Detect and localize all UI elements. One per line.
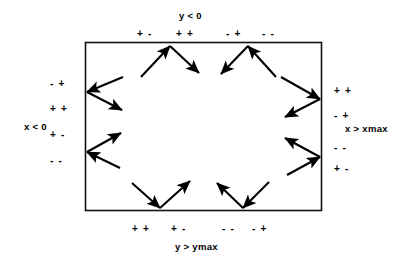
arrow-bottom-left-incoming [132,183,160,208]
boundary-rectangle [86,43,322,211]
left-sign-label-2: + + [50,104,68,114]
arrow-left-upper-outgoing [87,92,122,110]
top-condition-label: y < 0 [179,11,202,21]
left-sign-label-3: + - [50,130,66,140]
arrow-top-left-outgoing [170,46,199,73]
bottom-sign-label-1: + + [132,224,150,234]
left-sign-label-1: - + [50,79,66,89]
arrow-bottom-right-incoming [243,182,269,208]
top-sign-label-3: - + [226,29,242,39]
arrow-right-upper-outgoing [285,99,320,117]
bottom-condition-label: y > ymax [175,242,218,252]
right-sign-label-2: - + [334,111,350,121]
arrow-bottom-left-outgoing [160,181,190,208]
left-condition-label: x < 0 [24,122,47,132]
arrow-left-upper-incoming [87,77,123,92]
right-sign-label-3: - - [334,143,347,153]
left-sign-label-4: - - [50,156,63,166]
boundary-reflection-diagram: y < 0 + - + + - + - - - + + + + - - - x … [0,0,407,269]
top-sign-label-4: - - [262,29,275,39]
arrow-right-lower-incoming [287,157,320,175]
right-sign-label-4: + - [334,164,350,174]
arrow-top-right-outgoing [221,46,248,74]
arrow-left-lower-incoming [87,152,120,168]
arrow-left-lower-outgoing [87,133,121,152]
bottom-sign-label-4: - + [252,224,268,234]
arrow-bottom-right-outgoing [217,183,243,208]
arrow-top-left-incoming [141,46,170,77]
bottom-sign-label-3: - - [222,224,235,234]
right-sign-label-1: + + [334,86,352,96]
bottom-sign-label-2: + - [171,224,187,234]
arrow-right-upper-incoming [281,77,320,99]
right-condition-label: x > xmax [345,124,388,134]
reflection-arrows [87,46,320,208]
arrow-right-lower-outgoing [285,138,320,157]
arrow-top-right-incoming [248,46,276,77]
top-sign-label-2: + + [176,29,194,39]
top-sign-label-1: + - [137,29,153,39]
